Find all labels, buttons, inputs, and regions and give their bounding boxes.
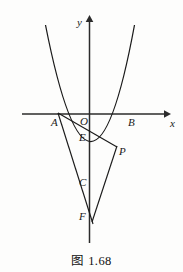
point-label-A: A (51, 117, 58, 128)
point-label-B: B (128, 117, 135, 128)
figure-caption: 图 1.68 (0, 250, 183, 269)
point-label-C: C (79, 177, 86, 188)
geometry-diagram (0, 0, 183, 272)
y-axis-arrow-icon (86, 15, 94, 22)
point-label-E: E (79, 132, 86, 143)
segment-FP (92, 146, 117, 222)
point-label-F: F (79, 211, 86, 222)
y-axis-label: y (77, 17, 82, 28)
point-label-P: P (119, 146, 126, 157)
x-axis-label: x (170, 118, 175, 129)
point-label-O: O (80, 116, 88, 127)
x-axis (22, 110, 171, 118)
figure-container: y x A O B E P C F 图 1.68 (0, 0, 183, 272)
